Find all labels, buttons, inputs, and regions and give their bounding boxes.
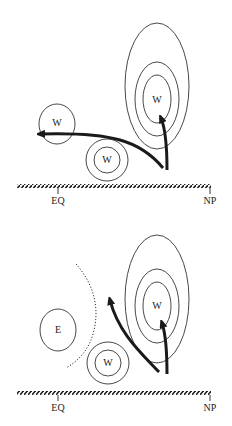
low-latitude-warm-system: W	[86, 139, 128, 181]
eq-label: EQ	[51, 402, 65, 413]
dotted-boundary	[66, 264, 96, 368]
hatched-surface	[17, 391, 211, 395]
bottom-panel: W E W EQ NP	[17, 235, 217, 413]
latitude-axis: EQ NP	[17, 391, 217, 413]
high-latitude-warm-system: W	[125, 23, 189, 149]
eq-label: EQ	[51, 195, 65, 206]
low-latitude-warm-system: W	[87, 342, 129, 384]
northward-arrow	[162, 323, 167, 374]
np-label: NP	[204, 195, 217, 206]
np-label: NP	[204, 402, 217, 413]
east-label: E	[55, 324, 61, 335]
warm-label: W	[152, 94, 162, 105]
northward-arrow	[161, 118, 167, 170]
outer-contour	[125, 23, 189, 149]
warm-label: W	[102, 154, 112, 165]
diagram-canvas: W W W EQ NP W	[0, 0, 232, 426]
warm-label: W	[103, 357, 113, 368]
warm-label: W	[152, 300, 162, 311]
warm-label: W	[52, 117, 62, 128]
east-region-system: E	[40, 309, 76, 351]
western-warm-system: W	[39, 104, 75, 144]
hatched-surface	[17, 184, 211, 188]
latitude-axis: EQ NP	[17, 184, 217, 206]
top-panel: W W W EQ NP	[17, 23, 217, 206]
